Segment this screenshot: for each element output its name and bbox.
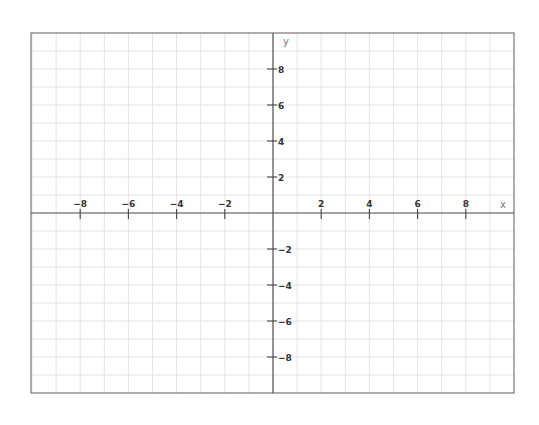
x-axis-label: x [500, 199, 506, 210]
x-tick-label: 4 [366, 199, 372, 209]
x-tick-label: −6 [121, 199, 135, 209]
y-tick-label: −2 [278, 245, 292, 255]
x-axis-ticks: −8−6−4−22468 [73, 199, 469, 219]
y-axis-label: y [283, 36, 289, 47]
x-tick-label: −4 [170, 199, 184, 209]
y-tick-label: 6 [278, 101, 284, 111]
x-tick-label: 8 [463, 199, 469, 209]
x-tick-label: 2 [318, 199, 324, 209]
y-tick-label: 4 [278, 137, 284, 147]
coordinate-plane: −8−6−4−22468 8642−2−4−6−8 x y [0, 0, 539, 425]
y-tick-label: −6 [278, 317, 292, 327]
y-tick-label: 2 [278, 173, 284, 183]
y-tick-label: 8 [278, 65, 284, 75]
x-tick-label: −2 [218, 199, 232, 209]
x-tick-label: 6 [414, 199, 420, 209]
y-tick-label: −4 [278, 281, 292, 291]
x-tick-label: −8 [73, 199, 87, 209]
y-tick-label: −8 [278, 353, 292, 363]
